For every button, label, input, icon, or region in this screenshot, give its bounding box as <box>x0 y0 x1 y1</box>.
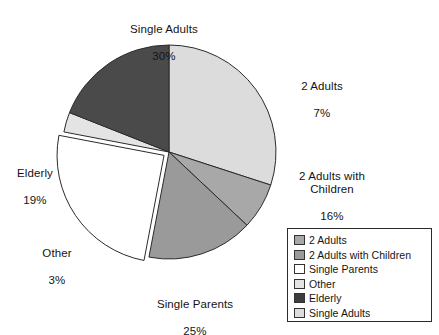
slice-label-other-name: Other <box>26 247 88 261</box>
legend-item-2-adults-with-children[interactable]: 2 Adults with Children <box>294 248 427 262</box>
slice-label-2-adults-with-children: 2 Adults with Children 16% <box>276 156 388 237</box>
pie-slice-group <box>57 45 276 260</box>
legend-swatch-single-adults <box>294 308 305 318</box>
legend-swatch-2-adults-with-children <box>294 250 305 260</box>
slice-label-2-adults-with-children-percent: 16% <box>276 210 388 224</box>
legend-label-single-adults: Single Adults <box>309 307 370 319</box>
legend-label-elderly: Elderly <box>309 292 341 304</box>
slice-label-other-percent: 3% <box>26 274 88 288</box>
slice-label-single-parents: Single Parents 25% <box>122 284 268 335</box>
legend-label-2-adults-with-children: 2 Adults with Children <box>309 249 411 261</box>
legend-item-other[interactable]: Other <box>294 277 427 291</box>
legend-swatch-other <box>294 279 305 289</box>
slice-label-2-adults-percent: 7% <box>276 107 368 121</box>
slice-label-elderly-name: Elderly <box>4 167 66 181</box>
slice-label-single-parents-percent: 25% <box>122 325 268 335</box>
chart-legend: 2 Adults2 Adults with ChildrenSingle Par… <box>287 228 432 322</box>
slice-label-single-adults: Single Adults 30% <box>96 9 232 77</box>
legend-list: 2 Adults2 Adults with ChildrenSingle Par… <box>294 233 427 320</box>
legend-swatch-single-parents <box>294 264 305 274</box>
legend-item-elderly[interactable]: Elderly <box>294 291 427 305</box>
slice-label-2-adults-name: 2 Adults <box>276 80 368 94</box>
slice-label-elderly: Elderly 19% <box>4 153 66 221</box>
slice-label-single-adults-name: Single Adults <box>96 23 232 37</box>
legend-swatch-2-adults <box>294 235 305 245</box>
slice-label-2-adults: 2 Adults 7% <box>276 66 368 134</box>
legend-item-2-adults[interactable]: 2 Adults <box>294 233 427 247</box>
slice-label-elderly-percent: 19% <box>4 194 66 208</box>
slice-label-single-parents-name: Single Parents <box>122 298 268 312</box>
legend-item-single-parents[interactable]: Single Parents <box>294 262 427 276</box>
pie-chart: Single Adults 30% 2 Adults 7% 2 Adults w… <box>0 0 439 335</box>
slice-label-other: Other 3% <box>26 233 88 301</box>
slice-label-single-adults-percent: 30% <box>96 50 232 64</box>
legend-label-2-adults: 2 Adults <box>309 234 347 246</box>
legend-label-single-parents: Single Parents <box>309 263 378 275</box>
legend-item-single-adults[interactable]: Single Adults <box>294 306 427 320</box>
legend-label-other: Other <box>309 278 336 290</box>
slice-label-2-adults-with-children-name: 2 Adults with Children <box>276 170 388 197</box>
legend-swatch-elderly <box>294 293 305 303</box>
